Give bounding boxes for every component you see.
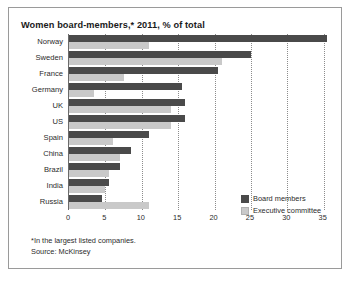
legend-item-exec: Executive committee [241, 206, 341, 215]
x-axis-tick-10: 10 [137, 213, 145, 222]
footnotes: *In the largest listed companies. Source… [31, 236, 136, 257]
bar-sweden-executive-committee [69, 58, 222, 64]
bar-france-executive-committee [69, 74, 124, 80]
chart-card: Women board-members,* 2011, % of total N… [8, 7, 342, 269]
bar-sweden-board-members [69, 51, 251, 57]
bar-india-board-members [69, 179, 109, 185]
y-axis-label-germany: Germany [32, 86, 63, 94]
bar-us-board-members [69, 115, 185, 121]
bar-germany-board-members [69, 83, 182, 89]
y-axis-label-us: US [52, 118, 63, 126]
chart-title: Women board-members,* 2011, % of total [21, 20, 205, 30]
legend-item-board: Board members [241, 194, 341, 203]
bar-russia-executive-committee [69, 202, 149, 208]
bar-brazil-board-members [69, 163, 120, 169]
chart-legend: Board membersExecutive committee [241, 194, 341, 218]
bar-france-board-members [69, 67, 218, 73]
bar-spain-executive-committee [69, 138, 113, 144]
y-axis-label-china: China [43, 150, 63, 158]
y-axis-label-norway: Norway [37, 38, 63, 46]
bar-germany-executive-committee [69, 90, 94, 96]
y-axis-label-uk: UK [52, 102, 63, 110]
y-axis-label-spain: Spain [44, 134, 63, 142]
legend-swatch-exec [241, 207, 249, 215]
bar-uk-board-members [69, 99, 185, 105]
legend-label-exec: Executive committee [253, 206, 321, 215]
y-axis-label-brazil: Brazil [44, 166, 63, 174]
bar-india-executive-committee [69, 186, 105, 192]
y-axis-label-india: India [47, 182, 63, 190]
x-axis-tick-15: 15 [173, 213, 181, 222]
bars-plot [68, 34, 330, 210]
footnote-source: Source: McKinsey [31, 247, 136, 258]
bar-norway-executive-committee [69, 42, 149, 48]
x-axis-tick-0: 0 [66, 213, 70, 222]
bar-uk-executive-committee [69, 106, 171, 112]
bar-china-board-members [69, 147, 131, 153]
x-axis-tick-20: 20 [209, 213, 217, 222]
bar-spain-board-members [69, 131, 149, 137]
y-axis-labels: NorwaySwedenFranceGermanyUKUSSpainChinaB… [21, 34, 66, 210]
x-axis-tick-5: 5 [102, 213, 106, 222]
bar-brazil-executive-committee [69, 170, 109, 176]
y-axis-label-russia: Russia [40, 198, 63, 206]
bars-layer [69, 34, 330, 210]
footnote-note: *In the largest listed companies. [31, 236, 136, 247]
bar-china-executive-committee [69, 154, 120, 160]
bar-us-executive-committee [69, 122, 171, 128]
y-axis-label-france: France [39, 70, 63, 78]
legend-swatch-board [241, 195, 249, 203]
bar-norway-board-members [69, 35, 327, 41]
y-axis-label-sweden: Sweden [36, 54, 63, 62]
bar-russia-board-members [69, 195, 102, 201]
legend-label-board: Board members [253, 194, 306, 203]
